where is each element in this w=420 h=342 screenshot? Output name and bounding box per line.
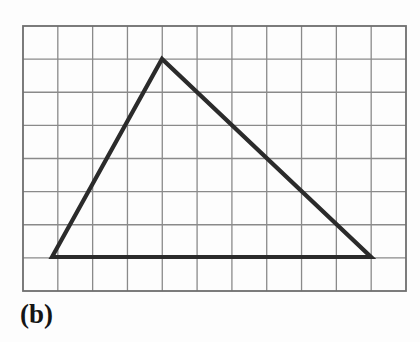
grid-triangle-figure — [0, 0, 420, 342]
figure-caption-b: (b) — [20, 298, 53, 330]
figure-container: (b) — [0, 0, 420, 342]
grid-lines — [23, 26, 406, 291]
